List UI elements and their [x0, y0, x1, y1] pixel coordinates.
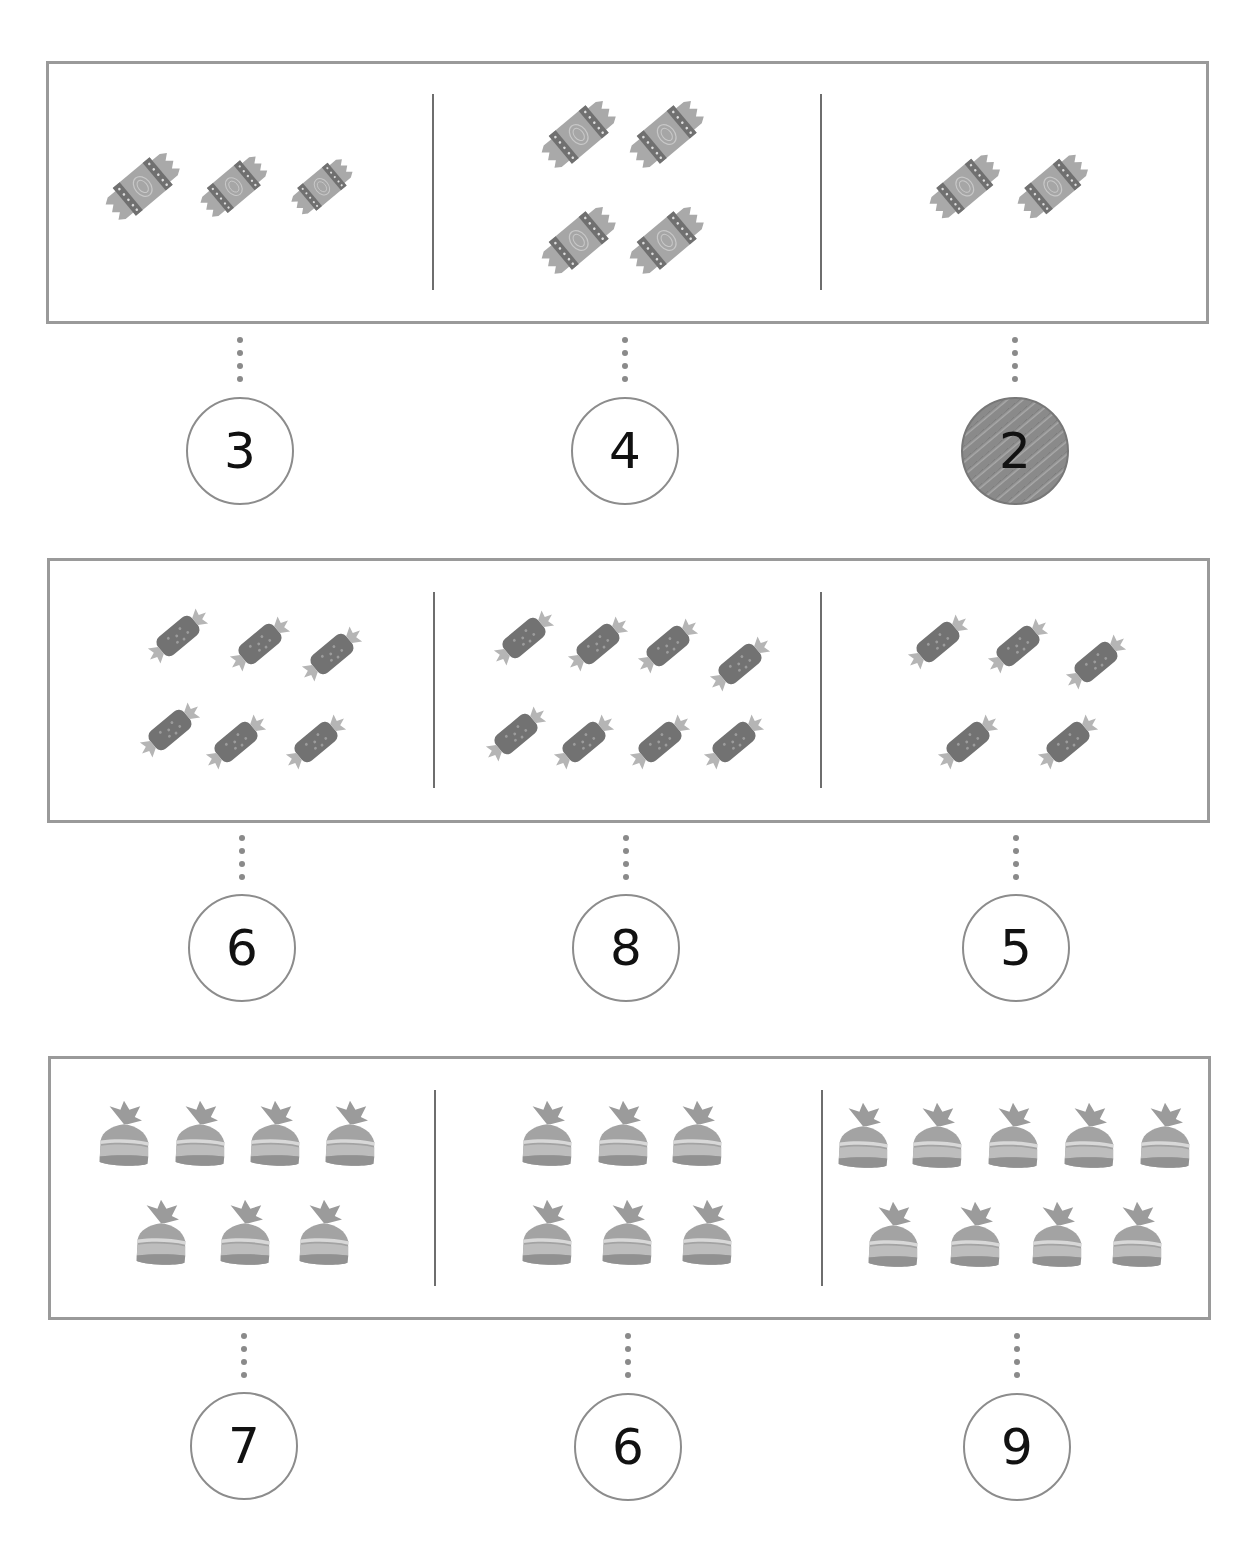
stick-candy-icon [544, 702, 624, 782]
group-divider [434, 1090, 436, 1286]
stick-candy-icon [276, 702, 356, 782]
connector-dots [623, 835, 629, 887]
bag-candy-icon [680, 1197, 734, 1271]
wrapped-candy-icon [199, 152, 271, 224]
answer-circle-row3-group1[interactable]: 7 [190, 1392, 298, 1500]
stick-candy-icon [898, 602, 978, 682]
stick-candy-icon [978, 606, 1058, 686]
bag-candy-icon [836, 1100, 890, 1174]
bag-candy-icon [134, 1197, 188, 1271]
bag-candy-icon [596, 1098, 650, 1172]
connector-dots [239, 835, 245, 887]
candy-box-row-2 [47, 558, 1210, 823]
bag-candy-icon [1030, 1199, 1084, 1273]
wrapped-candy-icon [290, 155, 356, 221]
stick-candy-icon [620, 702, 700, 782]
bag-candy-icon [323, 1098, 377, 1172]
bag-candy-icon [866, 1199, 920, 1273]
answer-circle-row1-group3-selected[interactable]: 2 [961, 397, 1069, 505]
answer-circle-row2-group3[interactable]: 5 [962, 894, 1070, 1002]
answer-number: 6 [612, 1422, 644, 1472]
group-divider [821, 1090, 823, 1286]
bag-candy-icon [248, 1098, 302, 1172]
connector-dots [241, 1333, 247, 1385]
wrapped-candy-icon [928, 150, 1004, 226]
stick-candy-icon [484, 598, 564, 678]
bag-candy-icon [1138, 1100, 1192, 1174]
wrapped-candy-icon [1016, 150, 1092, 226]
stick-candy-icon [628, 606, 708, 686]
stick-candy-icon [700, 624, 780, 704]
bag-candy-icon [520, 1098, 574, 1172]
answer-number: 5 [1000, 923, 1032, 973]
bag-candy-icon [910, 1100, 964, 1174]
stick-candy-icon [694, 702, 774, 782]
candy-box-row-3 [48, 1056, 1211, 1320]
stick-candy-icon [928, 702, 1008, 782]
wrapped-candy-icon [628, 96, 708, 176]
wrapped-candy-icon [540, 202, 620, 282]
bag-candy-icon [520, 1197, 574, 1271]
wrapped-candy-icon [628, 202, 708, 282]
answer-circle-row2-group2[interactable]: 8 [572, 894, 680, 1002]
answer-circle-row1-group2[interactable]: 4 [571, 397, 679, 505]
bag-candy-icon [173, 1098, 227, 1172]
answer-number: 4 [609, 426, 641, 476]
group-divider [820, 94, 822, 290]
bag-candy-icon [1110, 1199, 1164, 1273]
answer-number: 3 [224, 426, 256, 476]
bag-candy-icon [600, 1197, 654, 1271]
answer-circle-row3-group2[interactable]: 6 [574, 1393, 682, 1501]
stick-candy-icon [1056, 622, 1136, 702]
connector-dots [1012, 337, 1018, 389]
answer-circle-row3-group3[interactable]: 9 [963, 1393, 1071, 1501]
connector-dots [1014, 1333, 1020, 1385]
connector-dots [625, 1333, 631, 1385]
answer-number: 9 [1001, 1422, 1033, 1472]
connector-dots [622, 337, 628, 389]
stick-candy-icon [1028, 702, 1108, 782]
group-divider [820, 592, 822, 788]
answer-number: 6 [226, 923, 258, 973]
stick-candy-icon [196, 702, 276, 782]
connector-dots [1013, 835, 1019, 887]
answer-number: 8 [610, 923, 642, 973]
bag-candy-icon [986, 1100, 1040, 1174]
answer-number: 2 [999, 426, 1031, 476]
bag-candy-icon [218, 1197, 272, 1271]
answer-number: 7 [228, 1421, 260, 1471]
stick-candy-icon [138, 596, 218, 676]
bag-candy-icon [670, 1098, 724, 1172]
connector-dots [237, 337, 243, 389]
answer-circle-row2-group1[interactable]: 6 [188, 894, 296, 1002]
bag-candy-icon [97, 1098, 151, 1172]
stick-candy-icon [220, 604, 300, 684]
answer-circle-row1-group1[interactable]: 3 [186, 397, 294, 505]
wrapped-candy-icon [104, 148, 184, 228]
bag-candy-icon [297, 1197, 351, 1271]
group-divider [432, 94, 434, 290]
stick-candy-icon [292, 614, 372, 694]
bag-candy-icon [1062, 1100, 1116, 1174]
bag-candy-icon [948, 1199, 1002, 1273]
wrapped-candy-icon [540, 96, 620, 176]
group-divider [433, 592, 435, 788]
stick-candy-icon [558, 604, 638, 684]
